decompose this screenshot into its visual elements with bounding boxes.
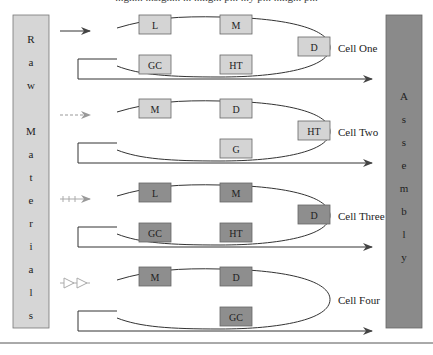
assembly-letter: b — [401, 205, 407, 217]
raw-materials-letter: i — [29, 240, 32, 252]
raw-materials-bar: RawMaterials — [13, 15, 49, 328]
station-m: M — [220, 15, 252, 34]
cell-label: Cell Three — [338, 210, 385, 222]
return-bracket — [78, 311, 117, 331]
station-l: L — [139, 183, 171, 202]
svg-text:G: G — [232, 144, 239, 155]
input-arrow-triangles — [60, 278, 90, 288]
station-m: M — [139, 267, 171, 286]
raw-materials-letter: w — [27, 79, 35, 91]
svg-text:HT: HT — [307, 126, 320, 137]
svg-text:L: L — [152, 188, 158, 199]
raw-materials-letter: a — [29, 148, 34, 160]
assembly-letter: l — [402, 228, 405, 240]
assembly-letter: s — [402, 136, 406, 148]
station-l: L — [139, 15, 171, 34]
cell-2: MDHTGCell Two — [60, 99, 379, 163]
svg-text:GC: GC — [229, 312, 243, 323]
return-bracket — [78, 227, 117, 247]
station-ht: HT — [298, 121, 330, 140]
svg-text:D: D — [232, 104, 239, 115]
station-ht: HT — [220, 223, 252, 242]
return-bracket — [78, 59, 117, 79]
svg-text:GC: GC — [148, 228, 162, 239]
station-g: G — [220, 139, 252, 158]
svg-text:M: M — [151, 104, 160, 115]
station-d: D — [220, 99, 252, 118]
svg-text:D: D — [310, 42, 317, 53]
raw-materials-letter: r — [29, 217, 33, 229]
cell-1: LMDGCHTCell One — [60, 15, 378, 79]
svg-text:L: L — [152, 20, 158, 31]
assembly-letter: A — [400, 90, 408, 102]
input-arrow-plus — [60, 196, 90, 202]
station-m: M — [220, 183, 252, 202]
raw-materials-letter: l — [29, 286, 32, 298]
svg-text:HT: HT — [229, 60, 242, 71]
cell-label: Cell Four — [338, 294, 380, 306]
cell-4: MDGCCell Four — [60, 267, 380, 331]
station-gc: GC — [139, 223, 171, 242]
raw-materials-letter: R — [27, 33, 35, 45]
raw-materials-letter: s — [29, 309, 33, 321]
manufacturing-cells-diagram: RawMaterials Assembly LMDGCHTCell OneMDH… — [0, 0, 433, 355]
svg-text:GC: GC — [148, 60, 162, 71]
svg-text:M: M — [232, 188, 241, 199]
assembly-letter: s — [402, 113, 406, 125]
svg-text:D: D — [310, 210, 317, 221]
raw-materials-letter: M — [26, 125, 36, 137]
svg-text:M: M — [232, 20, 241, 31]
cell-label: Cell One — [338, 42, 378, 54]
raw-materials-letter: t — [29, 171, 32, 183]
cell-label: Cell Two — [338, 126, 379, 138]
station-d: D — [220, 267, 252, 286]
station-ht: HT — [220, 55, 252, 74]
station-m: M — [139, 99, 171, 118]
assembly-bar: Assembly — [386, 15, 422, 328]
station-gc: GC — [220, 307, 252, 326]
station-gc: GC — [139, 55, 171, 74]
raw-materials-letter: a — [29, 56, 34, 68]
svg-text:D: D — [232, 272, 239, 283]
raw-materials-letter: e — [29, 194, 34, 206]
cell-3: LMDGCHTCell Three — [60, 183, 385, 247]
svg-text:M: M — [151, 272, 160, 283]
assembly-letter: y — [401, 251, 407, 263]
return-bracket — [78, 143, 117, 163]
svg-text:HT: HT — [229, 228, 242, 239]
assembly-letter: e — [402, 159, 407, 171]
assembly-letter: m — [400, 182, 409, 194]
station-d: D — [298, 205, 330, 224]
station-d: D — [298, 37, 330, 56]
raw-materials-letter: a — [29, 263, 34, 275]
